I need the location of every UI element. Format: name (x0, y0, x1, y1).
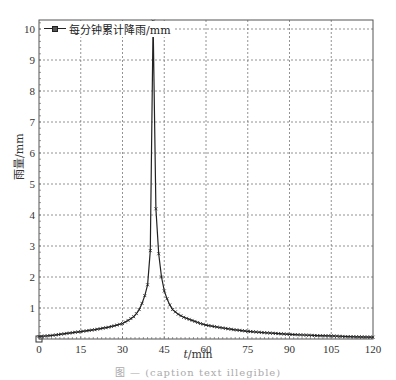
svg-text:6: 6 (30, 147, 36, 159)
figure-caption: 图 — (caption text illegible) (0, 364, 396, 379)
grid-lines (39, 20, 373, 339)
plot-frame (39, 20, 373, 339)
series-markers (36, 20, 375, 342)
svg-text:1: 1 (30, 302, 36, 314)
svg-text:3: 3 (30, 240, 36, 252)
legend: 每分钟累计降雨/mm (42, 21, 173, 37)
svg-text:2: 2 (30, 271, 36, 283)
svg-text:9: 9 (30, 54, 36, 66)
svg-text:10: 10 (24, 23, 36, 35)
x-axis-label: t/min (0, 348, 396, 361)
legend-label: 每分钟累计降雨/mm (69, 21, 171, 37)
legend-swatch-icon (44, 25, 66, 33)
svg-text:4: 4 (30, 209, 36, 221)
svg-text:5: 5 (30, 178, 36, 190)
y-axis-label: 雨量/mm (10, 133, 26, 180)
rainfall-line-chart: 015304560759010512012345678910 (0, 0, 396, 380)
svg-text:8: 8 (30, 85, 36, 97)
svg-text:7: 7 (30, 116, 36, 128)
x-axis-unit: /min (188, 348, 213, 361)
axis-ticks: 015304560759010512012345678910 (24, 23, 382, 355)
